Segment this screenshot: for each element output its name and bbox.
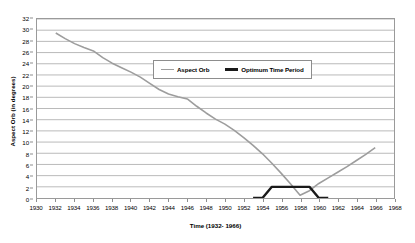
x-tick-label: 1940 <box>124 204 137 211</box>
x-tick-mark <box>93 199 94 202</box>
y-tick-mark <box>30 153 33 154</box>
y-tick-mark <box>30 63 33 64</box>
x-axis-tick-labels: 1930193219341936193819401942194419461948… <box>36 199 395 215</box>
y-tick-mark <box>30 187 33 188</box>
x-tick-label: 1958 <box>294 204 307 211</box>
y-tick-mark <box>30 176 33 177</box>
x-tick-mark <box>301 199 302 202</box>
x-tick-label: 1954 <box>256 204 269 211</box>
y-tick-label: 10 <box>22 139 29 146</box>
y-tick-label: 28 <box>22 37 29 44</box>
y-tick-mark <box>30 142 33 143</box>
y-tick-label: 32 <box>22 15 29 22</box>
x-tick-label: 1968 <box>389 204 402 211</box>
x-tick-label: 1956 <box>275 204 288 211</box>
x-axis-title: Time (1932- 1966) <box>36 222 395 229</box>
y-tick-label: 22 <box>22 71 29 78</box>
x-tick-label: 1952 <box>237 204 250 211</box>
legend-entry-aspect-orb: Aspect Orb <box>161 66 209 73</box>
x-tick-mark <box>74 199 75 202</box>
x-tick-label: 1932 <box>48 204 61 211</box>
x-tick-mark <box>168 199 169 202</box>
x-tick-label: 1948 <box>200 204 213 211</box>
x-tick-mark <box>357 199 358 202</box>
x-tick-mark <box>149 199 150 202</box>
y-tick-label: 20 <box>22 82 29 89</box>
legend-label-aspect-orb: Aspect Orb <box>177 66 209 73</box>
y-axis-tick-labels: 02468101214161820222426283032 <box>0 18 33 199</box>
x-tick-mark <box>36 199 37 202</box>
y-tick-label: 6 <box>26 162 29 169</box>
y-tick-label: 18 <box>22 94 29 101</box>
y-tick-label: 26 <box>22 48 29 55</box>
y-tick-mark <box>30 74 33 75</box>
x-tick-label: 1962 <box>332 204 345 211</box>
x-tick-label: 1942 <box>143 204 156 211</box>
y-tick-mark <box>30 51 33 52</box>
y-tick-mark <box>30 29 33 30</box>
x-tick-mark <box>130 199 131 202</box>
y-tick-mark <box>30 165 33 166</box>
x-tick-label: 1964 <box>351 204 364 211</box>
y-tick-label: 2 <box>26 184 29 191</box>
aspect-orb-line-chart: Aspect Orb (in degrees) 0246810121416182… <box>0 0 415 243</box>
x-tick-label: 1946 <box>181 204 194 211</box>
black-line-swatch <box>225 68 238 71</box>
x-tick-label: 1944 <box>162 204 175 211</box>
series-line-optimum-time-period <box>253 187 328 198</box>
y-tick-mark <box>30 40 33 41</box>
y-tick-label: 30 <box>22 26 29 33</box>
y-tick-mark <box>30 18 33 19</box>
y-tick-label: 8 <box>26 150 29 157</box>
x-tick-label: 1950 <box>218 204 231 211</box>
x-tick-label: 1960 <box>313 204 326 211</box>
x-tick-label: 1934 <box>67 204 80 211</box>
y-tick-mark <box>30 108 33 109</box>
y-tick-label: 0 <box>26 196 29 203</box>
x-tick-mark <box>206 199 207 202</box>
x-tick-mark <box>244 199 245 202</box>
x-tick-mark <box>395 199 396 202</box>
legend-entry-optimum-time-period: Optimum Time Period <box>225 66 303 73</box>
x-tick-mark <box>282 199 283 202</box>
y-tick-mark <box>30 199 33 200</box>
legend-label-optimum-time-period: Optimum Time Period <box>241 66 303 73</box>
x-tick-mark <box>112 199 113 202</box>
x-tick-label: 1936 <box>86 204 99 211</box>
series-line-aspect-orb <box>56 33 375 195</box>
y-tick-mark <box>30 119 33 120</box>
x-tick-mark <box>187 199 188 202</box>
x-tick-mark <box>338 199 339 202</box>
y-tick-label: 14 <box>22 116 29 123</box>
x-tick-label: 1930 <box>30 204 43 211</box>
x-tick-mark <box>225 199 226 202</box>
y-tick-label: 4 <box>26 173 29 180</box>
series-lines <box>37 19 394 198</box>
x-tick-mark <box>319 199 320 202</box>
y-tick-label: 16 <box>22 105 29 112</box>
x-tick-label: 1966 <box>370 204 383 211</box>
y-tick-mark <box>30 97 33 98</box>
x-tick-mark <box>55 199 56 202</box>
y-tick-label: 12 <box>22 128 29 135</box>
chart-legend: Aspect Orb Optimum Time Period <box>153 60 312 79</box>
x-tick-mark <box>376 199 377 202</box>
y-tick-mark <box>30 131 33 132</box>
gray-line-swatch <box>161 69 174 71</box>
plot-area <box>36 18 395 199</box>
x-tick-label: 1938 <box>105 204 118 211</box>
y-tick-mark <box>30 85 33 86</box>
x-tick-mark <box>263 199 264 202</box>
y-tick-label: 24 <box>22 60 29 67</box>
